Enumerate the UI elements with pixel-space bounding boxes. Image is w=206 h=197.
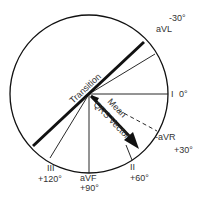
lead-ii-tick <box>126 145 132 160</box>
lead-avl-line <box>89 54 155 94</box>
lead-i-angle-label: 0° <box>179 89 188 99</box>
avl-label: aVL <box>156 24 172 34</box>
avf-angle-label: +90° <box>80 183 99 193</box>
lead-ii-label: II <box>130 162 135 172</box>
neg-avr-label: -aVR <box>155 132 176 142</box>
avl-angle-label: -30° <box>169 13 186 23</box>
avf-label: aVF <box>80 173 97 183</box>
lead-iii-label: III <box>47 163 55 173</box>
lead-iii-angle-label: +120° <box>38 174 62 184</box>
lead-ii-angle-label: +60° <box>130 173 149 183</box>
lead-i-label: I <box>171 89 174 99</box>
hexaxial-diagram: Transition Mean QRS Vector <box>0 0 206 197</box>
neg-avr-angle-label: +30° <box>174 145 193 155</box>
